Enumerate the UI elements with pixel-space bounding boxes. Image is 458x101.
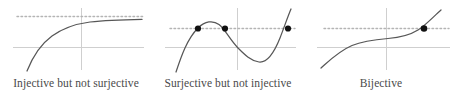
intersection-dot	[195, 25, 201, 31]
caption-bijective: Bijective	[304, 77, 458, 89]
intersection-dot	[421, 25, 428, 32]
panel-surjective-not-injective: Surjective but not injective	[152, 0, 304, 101]
plot-surjective-not-injective	[152, 0, 304, 78]
plot-injective-not-surjective	[0, 0, 152, 78]
panel-injective-not-surjective: Injective but not surjective	[0, 0, 152, 101]
plot-bijective	[304, 0, 458, 78]
function-types-figure: Injective but not surjective Surjective …	[0, 0, 458, 101]
function-curve	[321, 10, 441, 68]
caption-surjective-not-injective: Surjective but not injective	[152, 77, 304, 89]
function-curve	[176, 9, 291, 72]
intersection-dot	[285, 25, 291, 31]
caption-injective-not-surjective: Injective but not surjective	[0, 77, 152, 89]
intersection-dot	[222, 25, 228, 31]
panel-bijective: Bijective	[304, 0, 458, 101]
function-curve	[27, 19, 142, 71]
